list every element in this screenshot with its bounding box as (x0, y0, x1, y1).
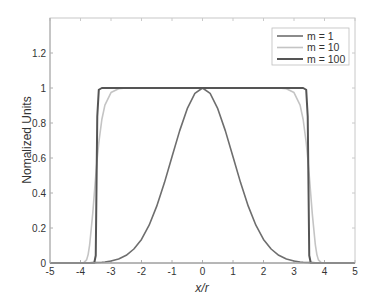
y-tick-label: 0.4 (32, 188, 46, 199)
x-tick-label: 5 (352, 266, 358, 277)
y-tick-label: 1.2 (32, 48, 46, 59)
y-tick-label: 0.8 (32, 118, 46, 129)
x-tick-label: -3 (107, 266, 116, 277)
x-tick-label: 1 (230, 266, 236, 277)
y-tick-label: 0.6 (32, 153, 46, 164)
legend-label: m = 1 (307, 30, 334, 42)
x-tick-label: -5 (46, 266, 55, 277)
y-tick-label: 1 (40, 83, 46, 94)
y-axis-label: Nomalized Units (20, 96, 34, 183)
line-chart: -5-4-3-2-101234500.20.40.60.811.2 m = 1m… (0, 0, 374, 308)
legend-label: m = 100 (307, 53, 345, 65)
x-tick-label: 0 (200, 266, 206, 277)
legend-label: m = 10 (307, 41, 340, 53)
x-tick-label: 3 (291, 266, 297, 277)
legend: m = 1m = 10m = 100 (272, 28, 349, 65)
y-tick-label: 0 (40, 258, 46, 269)
x-tick-label: -1 (168, 266, 177, 277)
x-tick-label: -2 (137, 266, 146, 277)
chart-figure: -5-4-3-2-101234500.20.40.60.811.2 m = 1m… (0, 0, 374, 308)
x-tick-label: -4 (76, 266, 85, 277)
x-tick-label: 2 (261, 266, 267, 277)
x-axis-label: x/r (194, 281, 209, 295)
x-tick-label: 4 (322, 266, 328, 277)
y-tick-label: 0.2 (32, 223, 46, 234)
